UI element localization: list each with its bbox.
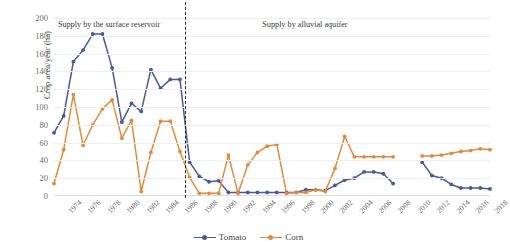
data-point: [246, 191, 250, 195]
data-point: [52, 182, 56, 186]
y-tick-label: 120: [24, 85, 48, 94]
x-tick-label: 2000: [318, 198, 335, 215]
x-tick-label: 2004: [357, 198, 374, 215]
chart-legend: Tomato Corn: [0, 232, 497, 242]
data-point: [246, 163, 250, 167]
series-corn: [52, 93, 492, 196]
data-point: [459, 186, 463, 190]
x-tick-label: 1998: [299, 198, 316, 215]
data-point: [110, 66, 114, 70]
plot-area: Supply by the surface reservoirSupply by…: [54, 18, 490, 196]
data-point: [62, 148, 66, 152]
data-point: [168, 78, 172, 82]
data-point: [159, 119, 163, 123]
legend-item-corn[interactable]: Corn: [260, 232, 303, 242]
data-point: [372, 155, 376, 159]
data-point: [227, 153, 231, 157]
data-point: [469, 186, 473, 190]
gridline: [54, 18, 490, 19]
data-point: [382, 172, 386, 176]
data-point: [478, 186, 482, 190]
y-tick-label: 200: [24, 14, 48, 23]
data-point: [178, 150, 182, 154]
data-point: [372, 170, 376, 174]
data-point: [227, 191, 231, 195]
data-point: [430, 174, 434, 178]
gridline: [54, 178, 490, 179]
data-point: [207, 191, 211, 195]
x-tick-label: 2008: [396, 198, 413, 215]
series-tomato: [52, 32, 492, 194]
x-tick-label: 2014: [454, 198, 471, 215]
x-tick-label: 1994: [260, 198, 277, 215]
data-point: [382, 155, 386, 159]
gridline: [54, 143, 490, 144]
data-point: [391, 155, 395, 159]
gridline: [54, 89, 490, 90]
data-point: [71, 93, 75, 97]
data-point: [352, 155, 356, 159]
x-axis: 1974197619781980198219841986198819901992…: [54, 198, 490, 228]
data-point: [265, 191, 269, 195]
data-point: [120, 136, 124, 140]
data-point: [139, 110, 143, 114]
x-tick-label: 2002: [338, 198, 355, 215]
data-point: [343, 134, 347, 138]
data-point: [256, 150, 260, 154]
data-point: [168, 119, 172, 123]
gridline: [54, 160, 490, 161]
data-point: [130, 118, 134, 122]
y-tick-label: 80: [24, 121, 48, 130]
data-point: [294, 191, 298, 195]
x-tick-label: 1986: [183, 198, 200, 215]
tomato-line-swatch: [194, 233, 216, 241]
data-point: [362, 170, 366, 174]
x-tick-label: 2006: [376, 198, 393, 215]
data-point: [81, 143, 85, 147]
data-point: [178, 78, 182, 82]
data-point: [52, 131, 56, 135]
y-tick-label: 100: [24, 103, 48, 112]
data-point: [236, 191, 240, 195]
y-tick-label: 0: [24, 192, 48, 201]
data-point: [71, 60, 75, 64]
gridline: [54, 125, 490, 126]
x-tick-label: 1980: [125, 198, 142, 215]
legend-item-tomato[interactable]: Tomato: [194, 232, 246, 242]
data-point: [459, 150, 463, 154]
data-point: [314, 188, 318, 192]
y-tick-label: 60: [24, 138, 48, 147]
x-tick-label: 1992: [241, 198, 258, 215]
x-tick-label: 2010: [415, 198, 432, 215]
data-point: [217, 191, 221, 195]
data-point: [217, 179, 221, 183]
data-point: [256, 191, 260, 195]
data-point: [488, 148, 492, 152]
data-point: [275, 191, 279, 195]
x-tick-label: 1984: [163, 198, 180, 215]
data-point: [420, 154, 424, 158]
data-point: [488, 187, 492, 191]
data-point: [130, 102, 134, 106]
y-axis: Crop area/year (ha) 20018016014012010080…: [24, 0, 48, 244]
data-point: [430, 154, 434, 158]
y-tick-label: 40: [24, 156, 48, 165]
surface-reservoir-band: Supply by the surface reservoir: [58, 20, 160, 29]
data-point: [149, 150, 153, 154]
data-point: [362, 155, 366, 159]
x-tick-label: 2016: [473, 198, 490, 215]
data-point: [120, 120, 124, 124]
data-point: [478, 147, 482, 151]
data-point: [207, 180, 211, 184]
data-point: [469, 149, 473, 153]
data-point: [323, 190, 327, 194]
gridline: [54, 54, 490, 55]
data-point: [440, 153, 444, 157]
gridline: [54, 107, 490, 108]
legend-label-tomato: Tomato: [219, 232, 246, 242]
y-tick-label: 180: [24, 32, 48, 41]
y-tick-label: 20: [24, 174, 48, 183]
x-tick-label: 1978: [105, 198, 122, 215]
x-tick-label: 1982: [144, 198, 161, 215]
x-tick-label: 1988: [202, 198, 219, 215]
